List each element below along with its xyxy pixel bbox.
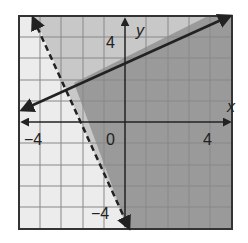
- inequality-graph: x y −4 0 4 4 −4: [0, 0, 248, 243]
- x-tick-4: 4: [203, 131, 212, 148]
- y-axis-label: y: [135, 22, 145, 39]
- y-tick-4: 4: [106, 34, 115, 51]
- x-tick-0: 0: [106, 131, 115, 148]
- x-tick-neg4: −4: [24, 131, 42, 148]
- x-axis-label: x: [226, 98, 236, 115]
- y-tick-neg4: −4: [91, 205, 109, 222]
